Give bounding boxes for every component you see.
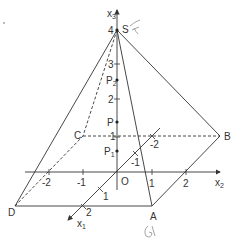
ticks xyxy=(49,64,186,209)
handwritten-F xyxy=(130,20,140,34)
x2-axis-label: x2 xyxy=(215,177,224,189)
x3-tick-3: 3 xyxy=(108,59,114,70)
x2-tick-1: 1 xyxy=(149,178,155,189)
vertex-B-label: B xyxy=(224,131,231,142)
point-P xyxy=(115,120,118,123)
edge-SB xyxy=(117,30,220,136)
vertex-D-label: D xyxy=(8,207,15,218)
stray-dot xyxy=(3,22,5,24)
x2-tick-neg1: -1 xyxy=(77,177,86,188)
vertex-C-label: C xyxy=(74,130,81,141)
point-P1-label: P1 xyxy=(104,146,115,158)
x1-tick-1: 1 xyxy=(103,191,109,202)
x2-tick-2: 2 xyxy=(183,178,189,189)
x3-axis-label: x3 xyxy=(107,8,116,20)
vertex-A-label: A xyxy=(150,211,157,222)
point-P1 xyxy=(115,149,118,152)
x3-tick-1: 1 xyxy=(110,131,116,142)
edge-SD xyxy=(15,30,117,206)
x1-tick-neg1: -1 xyxy=(131,157,140,168)
x1-tick-2: 2 xyxy=(86,207,92,218)
pyramid-diagram: -2 -1 1 2 1 2 3 4 -2 -1 1 2 x3 x2 x1 O S… xyxy=(0,0,235,242)
x3-tick-4: 4 xyxy=(108,25,114,36)
point-P-label: P xyxy=(107,117,114,128)
x1-tick-neg2: -2 xyxy=(150,139,159,150)
point-P2-label: P2 xyxy=(106,75,117,87)
point-S xyxy=(115,28,118,31)
vertex-labels: S A B C D xyxy=(8,24,231,222)
handwritten-G xyxy=(145,226,155,237)
vertex-S-label: S xyxy=(122,24,129,35)
axes xyxy=(25,10,220,220)
x2-tick-neg2: -2 xyxy=(42,177,51,188)
points xyxy=(3,22,118,152)
origin-label: O xyxy=(121,176,129,187)
point-labels: P2 P P1 xyxy=(104,75,117,158)
x3-tick-2: 2 xyxy=(108,94,114,105)
x1-axis-label: x1 xyxy=(77,218,86,230)
